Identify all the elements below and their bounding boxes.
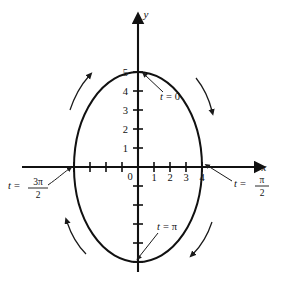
x-tick-label-1: 1: [151, 172, 156, 183]
origin-label: 0: [127, 171, 132, 182]
svg-text:t=π: t=π: [157, 221, 178, 232]
t-zero-value: 0: [175, 91, 180, 102]
leader-t-pi-over-2: [208, 166, 232, 181]
svg-text:t=: t=: [8, 180, 20, 191]
svg-text:t=: t=: [234, 178, 246, 189]
t-pi-over-2-equals: =: [240, 178, 246, 189]
t-pi-over-2-numerator: π: [260, 175, 265, 185]
figure-canvas: x y 0 1 2 3 4 1 2 3 4 5 t=0 t= π 2: [0, 0, 284, 281]
y-axis-label: y: [143, 8, 149, 20]
y-tick-label-5: 5: [123, 67, 128, 78]
t-zero-var: t: [160, 91, 164, 102]
annotation-t-pi-over-2: t= π 2: [234, 175, 269, 198]
x-tick-label-3: 3: [183, 172, 188, 183]
t-pi-value: π: [172, 221, 178, 232]
t-pi-over-2-denominator: 2: [260, 188, 265, 198]
annotation-t-3pi-over-2: t= 3π 2: [8, 177, 48, 200]
x-tick-label-2: 2: [167, 172, 172, 183]
svg-text:t=0: t=0: [160, 91, 180, 102]
y-tick-label-3: 3: [123, 105, 128, 116]
t-3pi-over-2-numerator: 3π: [33, 177, 43, 187]
leader-t-3pi-over-2: [48, 169, 69, 185]
direction-arrow-upper-left: [70, 76, 89, 110]
y-tick-label-2: 2: [123, 124, 128, 135]
axis-group: [22, 22, 256, 272]
x-axis-label: x: [261, 161, 267, 173]
t-pi-over-2-var: t: [234, 178, 238, 189]
t-3pi-over-2-equals: =: [14, 180, 20, 191]
y-tick-label-1: 1: [123, 143, 128, 154]
parametric-ellipse-figure: x y 0 1 2 3 4 1 2 3 4 5 t=0 t= π 2: [0, 0, 284, 281]
annotation-t-zero: t=0: [160, 91, 180, 102]
annotation-t-pi: t=π: [157, 221, 178, 232]
t-pi-equals: =: [163, 221, 169, 232]
x-tick-label-4: 4: [199, 172, 205, 183]
y-tick-label-4: 4: [123, 86, 129, 97]
leader-t-pi: [139, 233, 158, 257]
t-3pi-over-2-denominator: 2: [36, 190, 41, 200]
t-3pi-over-2-var: t: [8, 180, 12, 191]
direction-arrow-upper-right: [196, 78, 212, 111]
direction-arrow-lower-right: [193, 222, 212, 254]
t-pi-var: t: [157, 221, 161, 232]
t-zero-equals: =: [166, 91, 172, 102]
direction-arrow-lower-left: [67, 222, 86, 254]
